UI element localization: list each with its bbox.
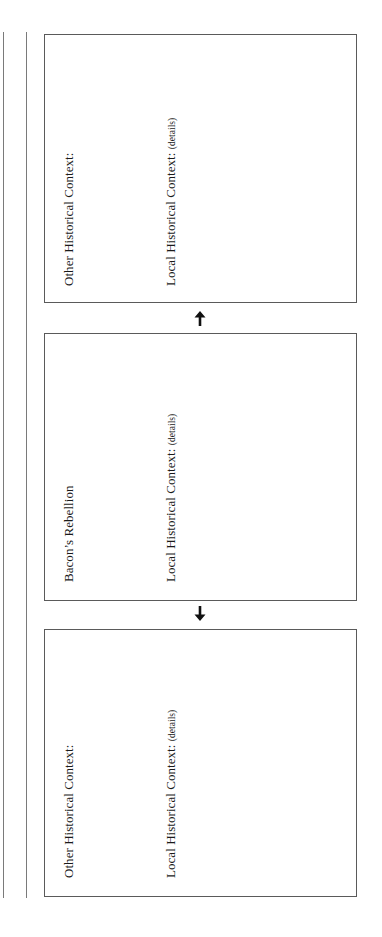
local-hint-text: (details) (167, 414, 177, 446)
margin-rule-inner (26, 32, 27, 898)
arrow-up-icon (194, 311, 206, 326)
local-context-label: Local Historical Context: (details) (164, 414, 179, 582)
heading-text: Bacon’s Rebellion (61, 485, 76, 582)
context-box-other-bottom: Other Historical Context: Local Historic… (44, 629, 357, 897)
local-label-text: Local Historical Context: (163, 153, 178, 286)
arrow-down-icon (194, 606, 206, 621)
local-label-text: Local Historical Context: (163, 745, 178, 878)
context-box-other-top: Other Historical Context: Local Historic… (44, 34, 357, 303)
local-context-label: Local Historical Context: (details) (164, 710, 179, 878)
heading-text: Other Historical Context: (61, 153, 76, 286)
box-heading: Other Historical Context: (62, 745, 76, 878)
local-context-label: Local Historical Context: (details) (164, 118, 179, 286)
heading-text: Other Historical Context: (61, 745, 76, 878)
context-box-bacons-rebellion: Bacon’s Rebellion Local Historical Conte… (44, 333, 357, 601)
local-hint-text: (details) (167, 118, 177, 150)
box-heading: Other Historical Context: (62, 153, 76, 286)
local-label-text: Local Historical Context: (163, 449, 178, 582)
margin-rule-outer (3, 32, 4, 898)
box-heading: Bacon’s Rebellion (62, 485, 76, 582)
local-hint-text: (details) (167, 710, 177, 742)
